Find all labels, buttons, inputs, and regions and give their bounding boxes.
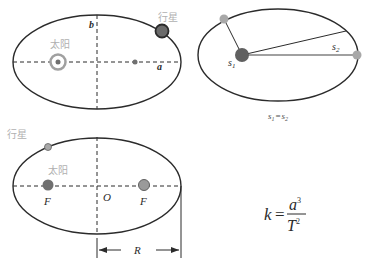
sun-icon [56, 60, 61, 65]
planet-icon [156, 25, 169, 38]
formula-denominator: T2 [287, 217, 300, 234]
planet-icon-right [353, 51, 362, 60]
planet-icon-top [220, 15, 229, 24]
sun-icon [235, 48, 249, 62]
focus-dot [139, 180, 150, 191]
second-law-diagram: s1 s2 s1=s2 [198, 9, 362, 122]
focus2-label: F [139, 195, 147, 207]
formula-lhs: k [264, 205, 272, 224]
sun-label: 太阳 [48, 164, 68, 176]
planet-icon [45, 144, 52, 151]
radius-label: R [133, 244, 141, 256]
third-law-diagram: 行星 太阳 F O F R [7, 128, 181, 258]
focus1-label: F [43, 195, 51, 207]
sun-icon [43, 180, 54, 191]
planet-label: 行星 [7, 128, 27, 140]
formula-equals: = [275, 205, 285, 224]
area2-label: s2 [332, 41, 340, 54]
equal-areas-equation: s1=s2 [268, 111, 288, 122]
sun-label: 太阳 [50, 38, 70, 50]
planet-label: 行星 [158, 11, 178, 23]
area1-label: s1 [228, 57, 235, 70]
kepler-third-law-formula: k = a3 T2 [264, 196, 306, 234]
radius-line-2 [242, 31, 346, 55]
semi-minor-label: b [89, 19, 94, 30]
center-label: O [103, 191, 111, 203]
first-law-diagram: 太阳 行星 b a [13, 11, 181, 109]
focus-dot [133, 60, 138, 65]
kepler-laws-diagram: 太阳 行星 b a s1 s2 s1=s2 行星 太阳 F O F [0, 0, 368, 270]
formula-numerator: a3 [289, 196, 301, 213]
semi-major-label: a [157, 61, 162, 72]
